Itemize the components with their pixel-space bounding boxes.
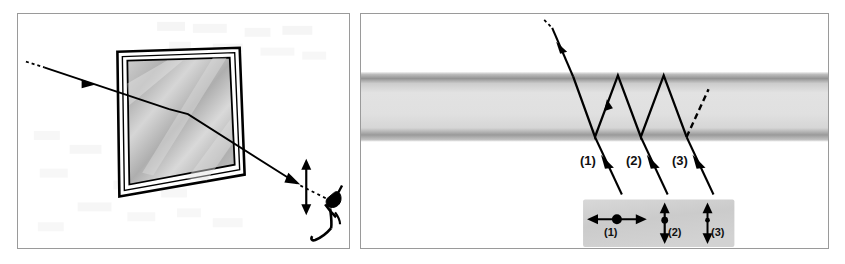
transmitted-ray-2-arrowhead	[647, 155, 660, 169]
polarization-state-1-label: (1)	[604, 227, 617, 238]
transmitted-rays	[595, 137, 713, 195]
transmitted-ray-3-label: (3)	[672, 154, 688, 167]
reflection-from-window-panel	[17, 13, 350, 249]
incident-ray-arrowhead	[556, 42, 567, 54]
observer-leg	[311, 228, 331, 240]
polarization-arrow-head-up	[301, 159, 311, 170]
glass-window-pane	[117, 48, 244, 197]
incident-ray	[544, 20, 573, 77]
incident-ray-dashed-tail	[544, 20, 552, 28]
transmitted-ray-1-arrowhead	[601, 155, 614, 169]
transmitted-ray-3-arrowhead	[693, 155, 706, 169]
multiple-internal-reflection-panel: (1) (2) (3) (1) (2) (3)	[360, 13, 829, 249]
inset-background	[583, 199, 734, 247]
observer-arm-lower	[335, 212, 340, 224]
left-panel-drawing	[18, 14, 349, 248]
state-1-dot	[612, 214, 622, 224]
figure-container: (1) (2) (3) (1) (2) (3)	[0, 0, 845, 264]
incident-ray-dashed-tail	[26, 62, 45, 68]
observer-torso	[330, 208, 331, 228]
observer-figure	[311, 186, 342, 241]
incident-ray-arrowhead	[82, 79, 96, 88]
transmitted-ray-1-label: (1)	[580, 154, 596, 167]
reflected-ray-arrowhead	[284, 173, 300, 185]
right-panel-drawing	[361, 14, 828, 248]
polarization-arrow-head-down	[301, 204, 311, 215]
polarization-state-2-label: (2)	[668, 227, 681, 238]
polarization-state-3-label: (3)	[711, 227, 724, 238]
polarization-state-1-glyph	[587, 214, 647, 224]
glass-slab	[361, 72, 828, 142]
polarization-states-inset	[583, 199, 734, 247]
state-3-dot	[705, 218, 710, 223]
glass-slab-body	[361, 72, 828, 142]
reflected-ray-dashed-tail	[300, 186, 326, 199]
state-2-dot	[661, 217, 668, 224]
transmitted-ray-2-label: (2)	[626, 154, 642, 167]
